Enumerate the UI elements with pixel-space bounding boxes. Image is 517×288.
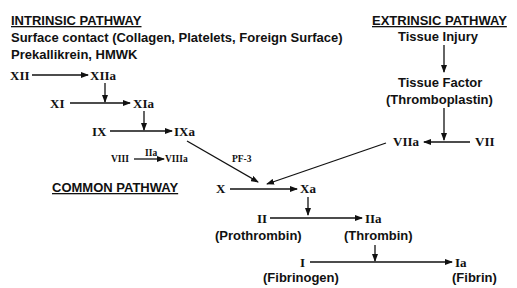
- factor-ix: IX: [92, 124, 107, 139]
- prekallikrein-text: Prekallikrein, HMWK: [11, 47, 138, 62]
- pf3-label: PF-3: [232, 154, 252, 164]
- common-pathway-title: COMMON PATHWAY: [52, 180, 178, 195]
- factor-xii: XII: [10, 68, 30, 83]
- factor-x: X: [216, 181, 226, 196]
- extrinsic-pathway-title: EXTRINSIC PATHWAY: [372, 13, 507, 28]
- prothrombin-label: (Prothrombin): [215, 228, 302, 243]
- factor-iia: IIa: [365, 211, 382, 226]
- factor-ii: II: [257, 211, 267, 226]
- surface-contact-text: Surface contact (Collagen, Platelets, Fo…: [11, 30, 343, 45]
- factor-xia: XIa: [133, 96, 154, 111]
- factor-i: I: [300, 255, 305, 270]
- factor-viia: VIIa: [393, 134, 420, 149]
- fibrin-label: (Fibrin): [452, 270, 497, 285]
- coagulation-cascade-diagram: INTRINSIC PATHWAY Surface contact (Colla…: [0, 0, 517, 288]
- factor-ixa: IXa: [174, 124, 195, 139]
- arrow-viia-to-xa: [267, 143, 386, 184]
- factor-xi: XI: [50, 96, 64, 111]
- factor-xiia: XIIa: [90, 68, 117, 83]
- tissue-injury-text: Tissue Injury: [398, 29, 479, 44]
- thrombin-label: (Thrombin): [344, 228, 413, 243]
- cofactor-iia: IIa: [145, 148, 157, 158]
- factor-xa: Xa: [300, 181, 316, 196]
- fibrinogen-label: (Fibrinogen): [263, 270, 339, 285]
- factor-vii: VII: [475, 134, 495, 149]
- factor-ia: Ia: [455, 255, 467, 270]
- tissue-factor-text: Tissue Factor: [398, 75, 482, 90]
- thromboplastin-text: (Thromboplastin): [386, 92, 493, 107]
- factor-viiia: VIIIa: [165, 154, 188, 164]
- intrinsic-pathway-title: INTRINSIC PATHWAY: [11, 13, 142, 28]
- factor-viii: VIII: [111, 154, 129, 164]
